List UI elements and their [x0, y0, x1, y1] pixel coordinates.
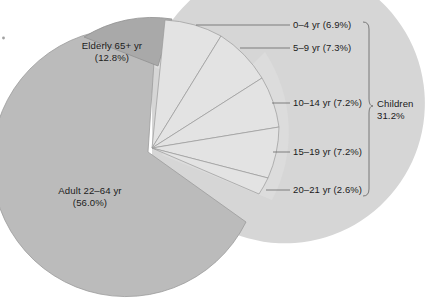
slice-label-adult-line1: Adult 22–64 yr	[35, 185, 145, 197]
children-group-label-line2: 31.2%	[377, 110, 414, 122]
slice-label-elderly: Elderly 65+ yr (12.8%)	[62, 40, 162, 64]
children-group-label: Children 31.2%	[377, 98, 414, 122]
slice-label-adult: Adult 22–64 yr (56.0%)	[35, 185, 145, 209]
callout-label-15-19: 15–19 yr (7.2%)	[293, 146, 362, 158]
scan-artifact-speck	[2, 37, 5, 40]
children-group-label-line1: Children	[377, 98, 414, 110]
callout-label-0-4: 0–4 yr (6.9%)	[293, 19, 351, 31]
callout-label-10-14: 10–14 yr (7.2%)	[293, 97, 362, 109]
slice-label-elderly-line1: Elderly 65+ yr	[62, 40, 162, 52]
slice-label-adult-line2: (56.0%)	[35, 197, 145, 209]
slice-label-elderly-line2: (12.8%)	[62, 52, 162, 64]
callout-label-20-21: 20–21 yr (2.6%)	[293, 184, 362, 196]
callout-label-5-9: 5–9 yr (7.3%)	[293, 42, 351, 54]
